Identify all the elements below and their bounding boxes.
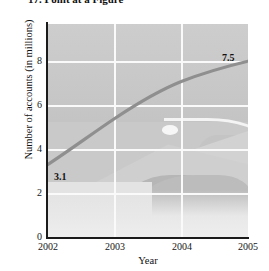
- x-tick-2003: 2003: [95, 241, 135, 252]
- page-title: 17. Point at a Figure: [28, 0, 123, 5]
- y-axis-line: [46, 22, 48, 239]
- x-tick-2005: 2005: [228, 241, 268, 252]
- x-axis-title: Year: [48, 255, 248, 266]
- annotation-start-value: 3.1: [54, 171, 67, 182]
- annotation-end-value: 7.5: [222, 52, 235, 63]
- x-tick-2004: 2004: [162, 241, 202, 252]
- y-axis-title: Number of accounts (in millions): [23, 10, 34, 170]
- y-tick-2: 2: [24, 188, 42, 198]
- x-axis-line: [46, 237, 249, 239]
- plot-area: [48, 24, 248, 237]
- x-tick-2002: 2002: [28, 241, 68, 252]
- data-series-line: [48, 24, 248, 237]
